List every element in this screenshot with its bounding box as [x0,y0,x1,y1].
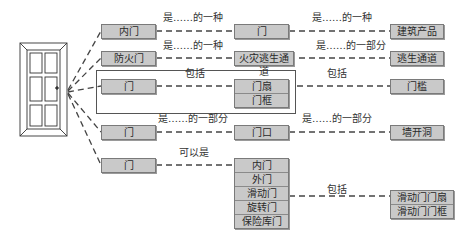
relation-label: 是……的一部分 [158,113,228,124]
door-icon [20,43,67,136]
relation-label: 是……的一种 [163,12,223,23]
node-sliding-door-leaf: 滑动门门扇 [391,191,453,205]
door-types-stack: 内门 外门 滑动门 旋转门 保险库门 [234,158,289,229]
relation-label: 是……的一种 [312,12,372,23]
door-parts-stack: 门扇 门框 [234,79,289,108]
relation-label: 是……的一种 [163,40,223,51]
node-revolving-door: 旋转门 [235,201,288,215]
node-door: 门 [234,24,289,39]
node-vault-door: 保险库门 [235,215,288,228]
node-inner-door: 内门 [235,159,288,173]
relation-label: 包括 [327,184,347,195]
relation-label: 可以是 [179,147,209,158]
node-building-product: 建筑产品 [390,24,444,39]
relation-label: 包括 [327,68,347,79]
node-doorway: 门口 [234,125,289,140]
node-door-leaf: 门扇 [235,80,288,94]
node-escape-route: 逃生通道 [390,51,444,66]
relation-label: 是……的一部分 [302,113,372,124]
relation-label: 包括 [185,68,205,79]
node-threshold: 门槛 [390,79,444,94]
node-sliding-door: 滑动门 [235,187,288,201]
node-wall-opening: 墙开洞 [390,125,444,140]
node-outer-door: 外门 [235,173,288,187]
node-sliding-door-frame: 滑动门门框 [391,205,453,218]
node-door: 门 [101,158,156,173]
node-door: 门 [101,125,156,140]
sliding-door-parts-stack: 滑动门门扇 滑动门门框 [390,190,454,219]
node-door-frame: 门框 [235,94,288,107]
node-inner-door: 内门 [101,24,156,39]
node-door: 门 [101,79,156,94]
relation-label: 是……的一部分 [316,40,386,51]
node-fire-escape: 火灾逃生通道 [234,51,294,66]
node-fire-door: 防火门 [101,51,156,66]
